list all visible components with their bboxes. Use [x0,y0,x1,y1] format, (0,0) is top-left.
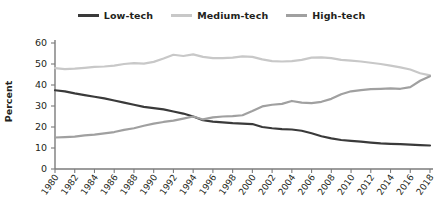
y-tick-label: 60 [35,37,47,48]
y-tick-label: 0 [41,163,47,174]
x-tick-label: 2012 [355,172,376,196]
y-tick-label: 50 [35,58,47,69]
series-line-high-tech [55,76,430,137]
x-tick-label: 2002 [256,172,277,196]
x-tick-label: 2014 [375,172,396,197]
series-line-medium-tech [55,54,430,75]
x-tick-label: 2008 [316,172,337,197]
x-tick-label: 2010 [335,172,356,197]
x-tick-label: 2016 [395,172,416,197]
x-tick-label: 1996 [197,172,218,197]
tech-share-line-chart: Low-tech Medium-tech High-tech Percent 0… [0,0,443,213]
x-tick-label: 1998 [217,172,238,197]
x-tick-label: 2006 [296,172,317,197]
series-line-low-tech [55,90,430,145]
plot-area: 0102030405060 19801982198419861988199019… [0,0,443,213]
x-tick-label: 2018 [414,172,435,197]
x-tick-label: 1992 [158,172,179,196]
x-tick-label: 1988 [118,172,139,197]
x-tick-label: 1984 [79,172,100,197]
x-tick-label: 1980 [39,172,60,197]
x-tick-label: 1990 [138,172,159,197]
x-tick-label: 2000 [237,172,258,197]
series-lines [55,54,430,145]
x-tick-label: 1994 [177,172,198,197]
y-tick-label: 40 [35,79,47,90]
y-tick-label: 20 [35,121,47,132]
x-axis-ticks: 1980198219841986198819901992199419961998… [39,169,435,197]
x-tick-label: 2004 [276,172,297,197]
y-axis-ticks: 0102030405060 [35,37,55,174]
y-tick-label: 30 [35,100,47,111]
x-tick-label: 1982 [59,172,80,196]
y-tick-label: 10 [35,142,47,153]
x-tick-label: 1986 [99,172,120,197]
